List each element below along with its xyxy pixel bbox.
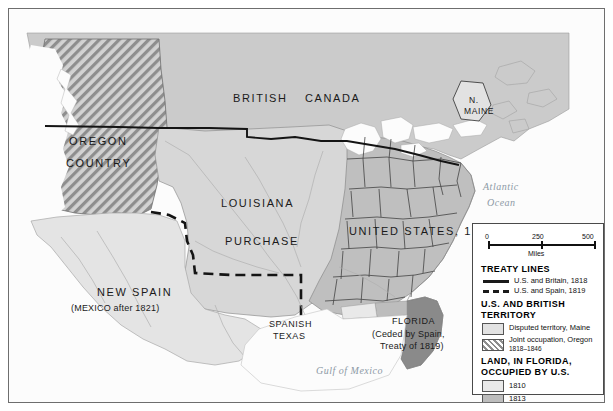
scale-tick-end: [594, 241, 596, 249]
legend-item-treaty-britain: U.S. and Britain, 1818: [481, 277, 596, 286]
legend-item-disputed-maine: Disputed territory, Maine: [481, 323, 596, 335]
legend-label-treaty-britain: U.S. and Britain, 1818: [514, 277, 587, 286]
scale-tick-start: [488, 241, 490, 249]
scale-value-middle: 250: [532, 233, 544, 240]
legend-heading-treaty-lines: TREATY LINES: [481, 264, 596, 275]
swatch-disputed-icon: [482, 323, 504, 335]
map-legend: 0 250 500 Miles TREATY LINES U.S. and Br…: [472, 223, 604, 395]
swatch-1813-icon: [482, 394, 504, 404]
legend-label-joint-occupation: Joint occupation, Oregon 1818–1846: [509, 336, 592, 353]
label-gulf-of-mexico: Gulf of Mexico: [316, 365, 383, 376]
scale-unit-label: Miles: [528, 250, 544, 257]
solid-line-key-icon: [483, 280, 509, 283]
label-ocean: Ocean: [487, 197, 516, 208]
legend-label-florida-1813: 1813: [509, 395, 526, 403]
legend-item-joint-occupation-oregon: Joint occupation, Oregon 1818–1846: [481, 336, 596, 353]
legend-heading-florida-line2: OCCUPIED BY U.S.: [481, 367, 596, 378]
swatch-1810-icon: [482, 380, 504, 392]
scale-tick-middle: [541, 241, 543, 249]
legend-label-joint-occupation-years: 1818–1846: [509, 345, 592, 354]
legend-item-florida-1810: 1810: [481, 380, 596, 392]
swatch-hatched-icon: [482, 339, 504, 351]
legend-heading-us-british-territory: U.S. AND BRITISH TERRITORY: [481, 299, 596, 321]
florida-1813: [375, 301, 407, 317]
legend-heading-florida-occupied: LAND, IN FLORIDA, OCCUPIED BY U.S.: [481, 356, 596, 378]
scale-bar: 0 250 500 Miles: [483, 233, 594, 259]
legend-heading-line2: TERRITORY: [481, 310, 596, 321]
scale-value-start: 0: [485, 233, 489, 240]
map-frame: OREGON COUNTRY BRITISH CANADA N. MAINE L…: [8, 8, 605, 403]
dashed-line-key-icon: [483, 290, 509, 293]
scale-numbers: 0 250 500: [483, 233, 594, 243]
label-atlantic: Atlantic: [483, 181, 519, 192]
legend-item-treaty-spain: U.S. and Spain, 1819: [481, 287, 596, 296]
legend-label-treaty-spain: U.S. and Spain, 1819: [514, 287, 585, 296]
historical-map: OREGON COUNTRY BRITISH CANADA N. MAINE L…: [0, 0, 613, 411]
legend-label-florida-1810: 1810: [509, 382, 526, 391]
legend-item-florida-1813: 1813: [481, 394, 596, 404]
legend-label-disputed-maine: Disputed territory, Maine: [509, 324, 590, 333]
scale-value-end: 500: [582, 233, 594, 240]
legend-label-joint-occupation-main: Joint occupation, Oregon: [509, 335, 592, 344]
legend-heading-line1: U.S. AND BRITISH: [481, 299, 596, 310]
legend-heading-florida-line1: LAND, IN FLORIDA,: [481, 356, 596, 367]
